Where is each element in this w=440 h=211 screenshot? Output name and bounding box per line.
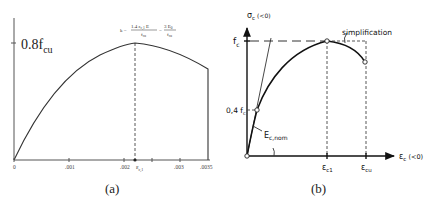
panel-a-curve — [14, 43, 208, 160]
svg-text:.001: .001 — [65, 164, 75, 170]
panel-a-y-label: 0.8fcu — [21, 37, 53, 55]
svg-text:=: = — [159, 28, 162, 33]
panel-b-04fc-marker — [255, 108, 259, 112]
panel-b-x-axis-label: εc (<0) — [399, 152, 423, 162]
svg-text:.003: .003 — [174, 164, 184, 170]
svg-text:3 E0: 3 E0 — [164, 24, 173, 30]
panel-b-ecu-label: εcu — [361, 163, 372, 173]
svg-text:0: 0 — [13, 164, 16, 170]
svg-text:.002: .002 — [120, 164, 130, 170]
panel-a-formula: k = 1.4 εc,1 E fcu = 3 E0 fcu — [120, 24, 176, 38]
panel-b-ec1-label: εc1 — [322, 163, 333, 173]
panel-b-caption: (b) — [311, 181, 326, 196]
panel-b-modulus-angle-arc — [273, 148, 274, 156]
panel-b-modulus-label: Ec,nom — [264, 131, 288, 141]
panel-a-peak-marker — [133, 158, 136, 161]
panel-b-modulus-leader — [253, 126, 262, 131]
svg-text:.0035: .0035 — [200, 164, 213, 170]
svg-text:k =: k = — [120, 28, 127, 33]
panel-a-caption: (a) — [105, 181, 119, 196]
svg-text:fcu: fcu — [167, 32, 172, 38]
panel-b-04fc-label: 0,4 fc — [226, 106, 246, 116]
panel-b-y-axis-label: σc (<0) — [247, 11, 271, 21]
panel-a-peak-label: εc,1 — [136, 164, 143, 173]
figure-canvas: 0.8fcu k = 1.4 εc,1 E fcu = 3 E0 fcu 0 .… — [0, 0, 440, 211]
panel-b-peak-marker — [325, 39, 329, 43]
svg-text:fcu: fcu — [141, 32, 146, 38]
panel-b-fc-label: fc — [233, 36, 239, 48]
panel-b-end-marker — [363, 60, 367, 64]
panel-b-origin-marker — [245, 154, 249, 158]
panel-b-simplification-label: simplification — [342, 28, 392, 37]
panel-a-x-tick-labels: 0 .001 .002 .003 .0035 — [13, 164, 213, 170]
